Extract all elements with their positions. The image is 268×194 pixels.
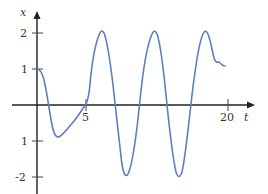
chart-root: x 2 1 1 -2 5 20 t: [0, 0, 268, 194]
y-tick-label-1: 1: [21, 63, 28, 76]
x-axis-arrow-icon: [34, 11, 41, 19]
y-tick-label-neg1: 1: [21, 135, 28, 148]
t-tick-label-20: 20: [220, 111, 234, 124]
data-series-line: [37, 31, 225, 177]
t-axis-label: t: [244, 111, 249, 124]
t-tick-label-5: 5: [82, 111, 89, 124]
line-chart: x 2 1 1 -2 5 20 t: [0, 0, 268, 194]
y-tick-label-neg2: -2: [15, 171, 26, 184]
y-tick-label-2: 2: [20, 27, 27, 40]
y-axis-label: x: [20, 6, 27, 19]
t-axis-arrow-icon: [247, 102, 255, 109]
